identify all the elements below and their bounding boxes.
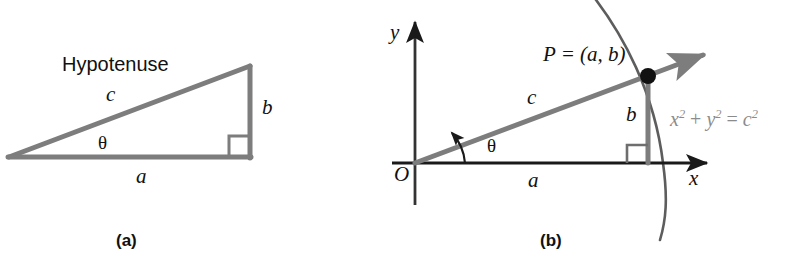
- label-b-side-c: c: [527, 87, 536, 108]
- label-b-x-axis: x: [689, 168, 698, 189]
- hypotenuse-title-label: Hypotenuse: [62, 54, 169, 74]
- eq-x: x: [670, 108, 679, 130]
- triangle-a-hypotenuse-line: [9, 66, 250, 157]
- label-a-side-b: b: [262, 97, 273, 118]
- panel-a-triangle: [8, 66, 251, 158]
- eq-plus: +: [685, 108, 706, 130]
- panel-b-diagram: [392, 0, 707, 240]
- eq-equals: =: [721, 108, 742, 130]
- label-a-side-c: c: [106, 84, 115, 105]
- label-b-point-p: P = (a, b): [543, 44, 626, 65]
- circle-equation-label: x2 + y2 = c2: [670, 108, 758, 129]
- eq-y: y: [706, 108, 715, 130]
- label-b-angle-theta: θ: [487, 136, 496, 155]
- label-b-origin: O: [394, 164, 409, 185]
- caption-b: (b): [540, 232, 562, 249]
- label-a-side-a: a: [136, 166, 147, 187]
- triangle-b-right-angle-marker: [627, 145, 648, 163]
- caption-a: (a): [116, 232, 137, 249]
- eq-exp-c: 2: [752, 107, 758, 121]
- figure-root: Hypotenuse c b a θ (a) y x O P = (a, b) …: [0, 0, 789, 275]
- label-a-angle-theta: θ: [98, 133, 107, 152]
- label-b-side-b: b: [626, 104, 637, 125]
- label-b-y-axis: y: [390, 22, 399, 43]
- point-p-marker: [640, 68, 656, 84]
- triangle-a-right-angle-marker: [229, 136, 250, 157]
- label-b-side-a: a: [528, 170, 539, 191]
- eq-c: c: [743, 108, 752, 130]
